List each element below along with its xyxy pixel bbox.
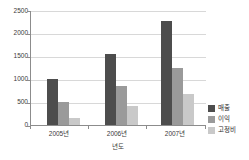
plot-area bbox=[30, 11, 206, 126]
bar-group-2007 bbox=[161, 11, 205, 125]
legend-item-fixedcost: 고정비 bbox=[208, 125, 236, 136]
y-tick-label-2000: 2000 bbox=[2, 30, 28, 37]
x-tick-mark-right bbox=[205, 126, 206, 129]
y-tick-label-1500: 1500 bbox=[2, 53, 28, 60]
legend-label-profit: 이익 bbox=[218, 116, 230, 123]
legend-label-sales: 매출 bbox=[218, 105, 230, 112]
bar-2005-fixedcost bbox=[69, 118, 80, 125]
chart-legend: 매출 이익 고정비 bbox=[208, 103, 236, 136]
legend-item-sales: 매출 bbox=[208, 103, 236, 114]
y-tick-label-2500: 2500 bbox=[2, 8, 28, 15]
x-tick-mark-2 bbox=[146, 126, 147, 129]
x-axis-title: 년도 bbox=[30, 144, 206, 151]
bar-2006-sales bbox=[105, 54, 116, 125]
bar-2005-sales bbox=[47, 79, 58, 125]
bar-2006-fixedcost bbox=[127, 106, 138, 125]
legend-swatch-icon-profit bbox=[208, 116, 215, 123]
bar-2007-profit bbox=[172, 68, 183, 125]
legend-swatch-icon-fixedcost bbox=[208, 127, 215, 134]
x-tick-label-2007: 2007년 bbox=[145, 131, 205, 138]
bar-2006-profit bbox=[116, 86, 127, 125]
bar-group-2005 bbox=[47, 11, 91, 125]
bar-group-2006 bbox=[105, 11, 149, 125]
x-tick-mark-left bbox=[30, 126, 31, 129]
bar-2007-sales bbox=[161, 21, 172, 125]
bar-chart: 2500 2000 1500 1000 500 0 bbox=[0, 0, 249, 160]
bar-2007-fixedcost bbox=[183, 94, 194, 125]
y-tick-label-500: 500 bbox=[2, 99, 28, 106]
bar-2005-profit bbox=[58, 102, 69, 125]
x-tick-label-2006: 2006년 bbox=[87, 131, 147, 138]
legend-item-profit: 이익 bbox=[208, 114, 236, 125]
y-tick-label-1000: 1000 bbox=[2, 76, 28, 83]
x-tick-label-2005: 2005년 bbox=[29, 131, 89, 138]
x-tick-mark-1 bbox=[88, 126, 89, 129]
legend-label-fixedcost: 고정비 bbox=[218, 127, 236, 134]
legend-swatch-icon-sales bbox=[208, 105, 215, 112]
y-tick-label-0: 0 bbox=[2, 122, 28, 129]
